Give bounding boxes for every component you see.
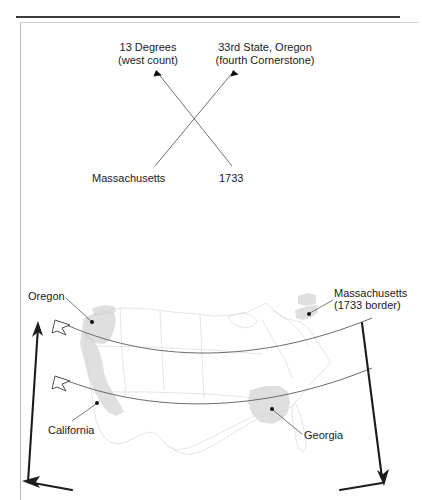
span-arrow-right-bottom-shaft xyxy=(340,483,382,490)
appalachian-divider xyxy=(262,320,292,378)
map-label-georgia: Georgia xyxy=(304,429,343,442)
state-massachusetts-fill xyxy=(295,305,318,320)
callout-dot-georgia xyxy=(270,407,274,411)
state-divider-3 xyxy=(200,315,204,398)
state-divider-1 xyxy=(120,309,126,396)
state-massachusetts-extra-fill xyxy=(298,293,316,306)
callout-dot-california xyxy=(95,401,99,405)
florida-outline xyxy=(292,404,306,452)
leader-oregon xyxy=(66,298,92,322)
arc-south-arrowhead xyxy=(52,376,70,391)
callout-dot-massachusetts xyxy=(307,312,311,316)
state-georgia-fill xyxy=(248,386,290,424)
great-lakes-outline xyxy=(228,313,258,328)
measurement-span-arrow-right xyxy=(340,323,389,490)
map-label-oregon: Oregon xyxy=(28,290,65,303)
map-label-massachusetts: Massachusetts(1733 border) xyxy=(334,287,418,311)
state-divider-4 xyxy=(90,346,262,354)
leader-california xyxy=(72,404,96,421)
arc-north-arrowhead xyxy=(52,320,70,335)
measurement-span-arrow-left xyxy=(22,321,72,490)
state-divider-5 xyxy=(94,392,258,398)
callout-dot-oregon xyxy=(90,320,94,324)
map-label-california: California xyxy=(48,424,94,437)
map-label-massachusetts-line2: (1733 border) xyxy=(334,299,401,311)
map-label-massachusetts-line1: Massachusetts xyxy=(334,287,407,299)
span-arrow-left-head xyxy=(22,476,40,488)
span-arrow-left-shaft xyxy=(28,327,38,482)
page-root: 13 Degrees(west count) 33rd State, Orego… xyxy=(0,0,422,500)
leader-georgia xyxy=(273,410,302,434)
us-outline-group xyxy=(86,303,330,455)
span-arrow-right-shaft xyxy=(362,323,382,478)
highlighted-states-group xyxy=(80,293,318,424)
